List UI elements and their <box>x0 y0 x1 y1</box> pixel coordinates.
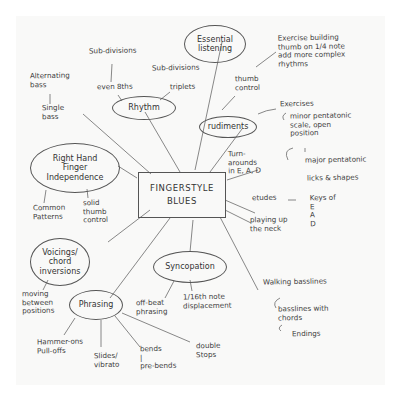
label-keys-of: Keys of E A D <box>310 194 337 229</box>
label-double-stops: double Stops <box>196 342 221 360</box>
node-right-hand-finger-independence[interactable]: Right Hand Finger Independence <box>30 143 120 193</box>
label-even-8ths: even 8ths <box>97 83 133 92</box>
label-playing-up-the-neck: playing up the neck <box>250 216 288 234</box>
label-bends-pre-bends: bends | pre-bends <box>140 345 177 371</box>
central-topic-line2: BLUES <box>167 195 197 208</box>
label-exercises: Exercises <box>280 100 314 109</box>
node-syncopation[interactable]: Syncopation <box>153 251 227 283</box>
label-endings: Endings <box>292 330 321 339</box>
node-rhythm[interactable]: Rhythm <box>112 96 176 120</box>
node-rudiments[interactable]: rudiments <box>199 116 257 138</box>
central-topic[interactable]: FINGERSTYLE BLUES <box>138 172 226 218</box>
label-sub-divisions: Sub-divisions <box>89 47 137 56</box>
central-topic-line1: FINGERSTYLE <box>150 182 214 195</box>
label-common-patterns: Common Patterns <box>33 204 66 222</box>
node-essential-listening[interactable]: Essential listening <box>184 25 246 63</box>
label-solid-thumb-control: solid thumb control <box>83 199 108 225</box>
label-minor-pentatonic: minor pentatonic scale, open position <box>290 111 352 138</box>
label-slides-vibrato: Slides/ vibrato <box>94 352 120 370</box>
label-thumb-exercise: Exercise building thumb on 1/4 note add … <box>278 33 346 69</box>
label-alternating-bass: Alternating bass <box>30 72 70 90</box>
label-sub-divisions-2: Sub-divisions <box>152 64 200 73</box>
label-single-bass: Single bass <box>42 104 64 122</box>
node-phrasing[interactable]: Phrasing <box>69 290 123 320</box>
label-hammer-ons-pull-offs: Hammer-ons Pull-offs <box>37 338 83 356</box>
label-major-pentatonic: major pentatonic <box>305 155 367 165</box>
label-moving-between-positions: moving between positions <box>22 290 55 316</box>
label-licks-shapes: licks & shapes <box>307 174 359 183</box>
label-etudes: etudes <box>252 194 277 203</box>
label-walking-basslines: Walking basslines <box>263 277 327 287</box>
label-off-beat-phrasing: off-beat phrasing <box>136 299 168 317</box>
label-triplets: triplets <box>170 83 195 92</box>
label-turnarounds: Turn- arounds in E, A, D <box>228 150 261 176</box>
label-16th-note-displacement: 1/16th note displacement <box>183 293 232 311</box>
label-basslines-with-chords: basslines with chords <box>278 305 329 323</box>
node-voicings-chord-inversions[interactable]: Voicings/ chord inversions <box>30 238 90 286</box>
label-thumb-control: thumb control <box>235 75 260 93</box>
